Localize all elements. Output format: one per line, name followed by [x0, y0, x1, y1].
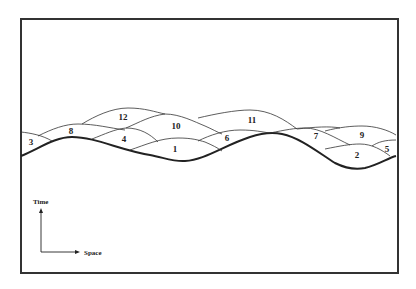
region-label-12: 12 [119, 112, 129, 122]
region-label-9: 9 [360, 130, 365, 140]
space-arrow-icon [75, 250, 80, 254]
diagram-svg: 1 2 3 4 5 6 7 8 9 10 11 12 Time Space [0, 0, 416, 289]
region-label-8: 8 [69, 126, 74, 136]
region-label-2: 2 [355, 150, 360, 160]
region-label-6: 6 [225, 133, 230, 143]
region-boundaries [21, 108, 396, 156]
time-arrow-icon [39, 208, 43, 213]
region-label-10: 10 [172, 121, 182, 131]
region-label-4: 4 [122, 134, 127, 144]
base-boundary-curve [21, 133, 396, 169]
time-axis-label: Time [33, 198, 48, 206]
axes-indicator: Time Space [33, 198, 102, 257]
region-label-5: 5 [385, 144, 390, 154]
diagram-canvas: 1 2 3 4 5 6 7 8 9 10 11 12 Time Space [0, 0, 416, 289]
region-label-7: 7 [314, 131, 319, 141]
region-label-11: 11 [248, 115, 257, 125]
region-label-3: 3 [29, 137, 34, 147]
region-label-1: 1 [173, 144, 178, 154]
space-axis-label: Space [84, 249, 102, 257]
